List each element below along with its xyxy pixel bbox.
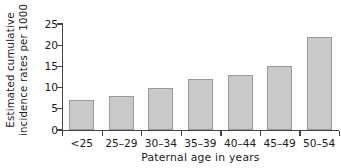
bar xyxy=(228,75,253,130)
x-axis-title: Paternal age in years xyxy=(62,151,339,164)
y-axis-tick-label: 5 xyxy=(36,103,58,114)
y-axis-title-line-2: incidence rates per 1000 xyxy=(17,4,30,136)
x-axis-tick-mark xyxy=(181,131,182,136)
x-axis-tick-mark xyxy=(141,131,142,136)
bar xyxy=(188,79,213,130)
x-axis-tick-mark xyxy=(339,131,340,136)
x-axis-tick-label: 30–34 xyxy=(141,137,181,149)
bars-layer xyxy=(62,24,339,130)
x-axis-tick-mark xyxy=(62,131,63,136)
y-axis-tick-label: 0 xyxy=(36,125,58,136)
x-axis-tick-labels: <2525–2930–3435–3940–4445–4950–54 xyxy=(62,137,339,151)
y-axis-title-line-1: Estimated cumulative xyxy=(4,4,17,136)
bar xyxy=(109,96,134,130)
y-axis-tick-label: 20 xyxy=(36,40,58,51)
x-axis-tick-label: 40–44 xyxy=(220,137,260,149)
y-axis-tick-label: 25 xyxy=(36,19,58,30)
x-axis-tick-label: <25 xyxy=(62,137,102,149)
y-axis-tick-label: 10 xyxy=(36,82,58,93)
bar-chart: Estimated cumulative incidence rates per… xyxy=(0,0,341,168)
y-axis-tick-labels: 0510152025 xyxy=(34,0,58,168)
x-axis-tick-label: 25–29 xyxy=(102,137,142,149)
x-axis-tick-mark xyxy=(102,131,103,136)
x-axis-tick-label: 45–49 xyxy=(260,137,300,149)
y-axis-tick-label: 15 xyxy=(36,61,58,72)
x-axis-tick-label: 35–39 xyxy=(181,137,221,149)
x-axis-line xyxy=(62,130,339,131)
y-axis-title: Estimated cumulative incidence rates per… xyxy=(0,0,34,140)
bar xyxy=(69,100,94,130)
x-axis-tick-mark xyxy=(260,131,261,136)
x-axis-tick-mark xyxy=(299,131,300,136)
bar xyxy=(267,66,292,130)
x-axis-tick-mark xyxy=(220,131,221,136)
x-axis-tick-label: 50–54 xyxy=(299,137,339,149)
bar xyxy=(307,37,332,130)
bar xyxy=(148,88,173,130)
